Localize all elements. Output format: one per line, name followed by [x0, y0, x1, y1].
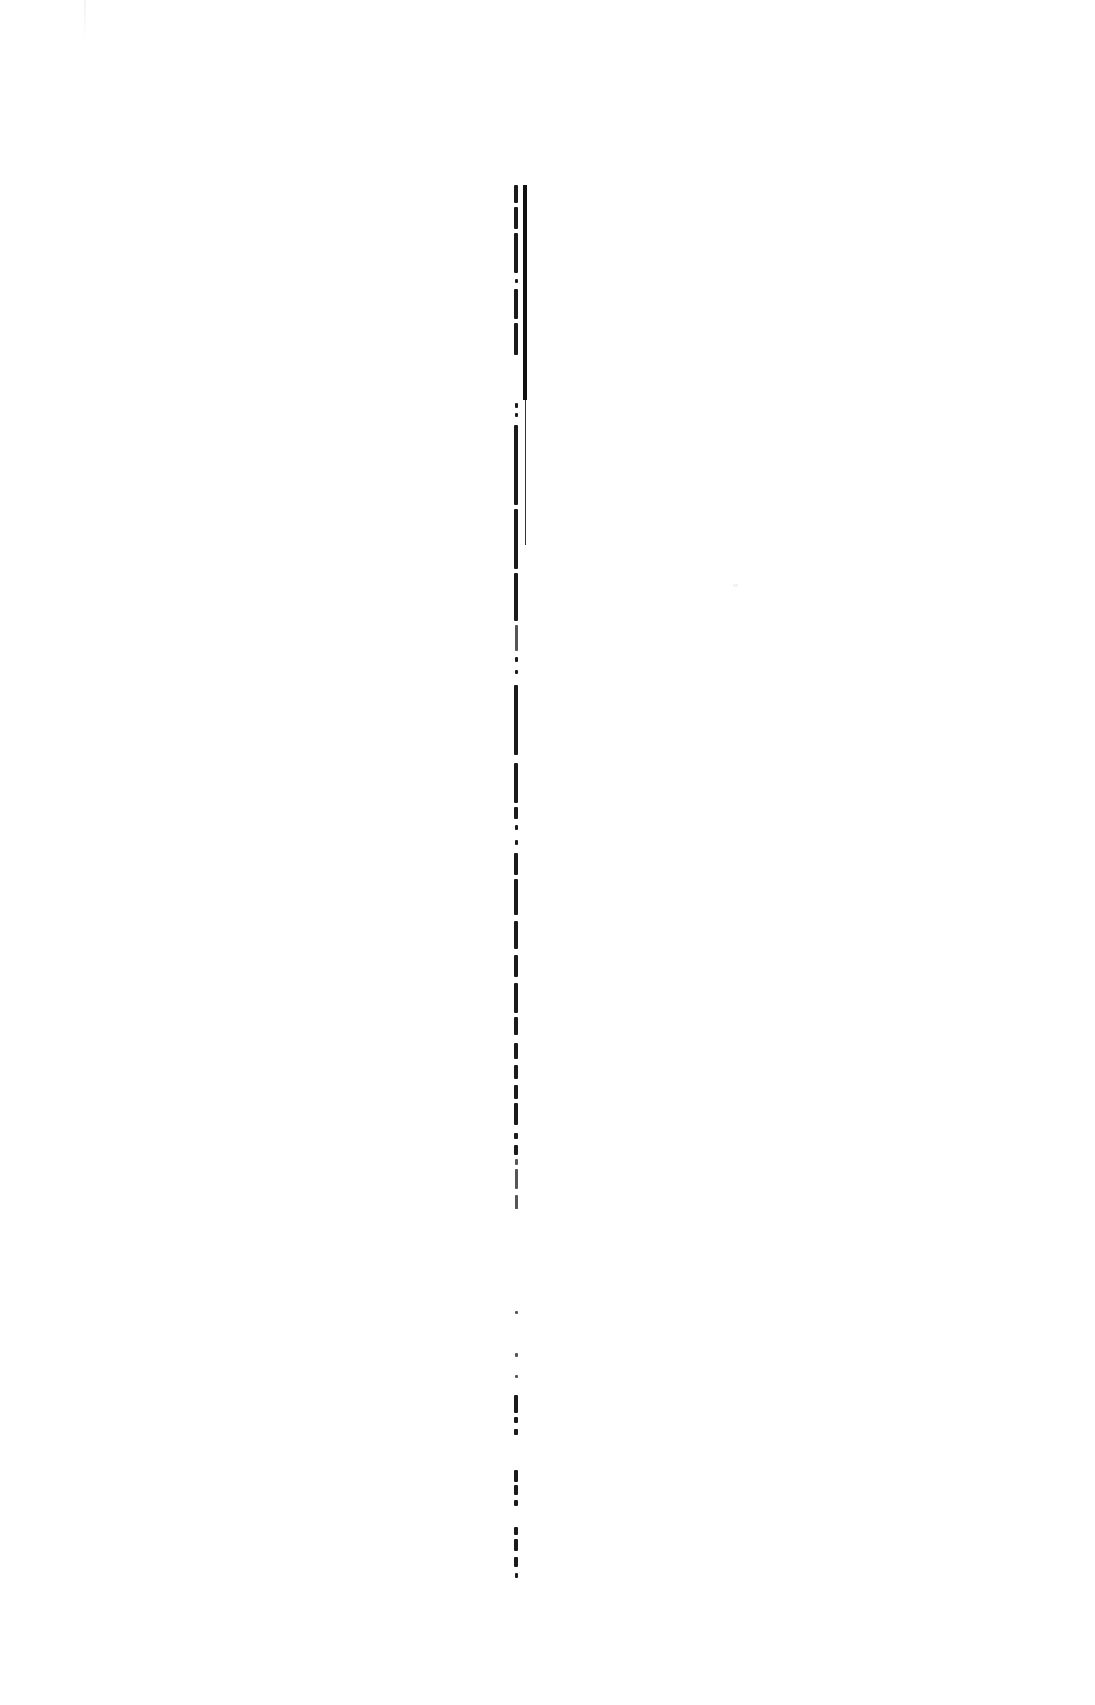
- text-fragment: [514, 1417, 518, 1423]
- rotated-text-line: [illegible scanned text]: [514, 185, 520, 1590]
- text-fragment: [514, 1065, 518, 1079]
- text-fragment: [514, 1043, 518, 1059]
- text-fragment: [514, 323, 518, 355]
- text-fragment: [514, 1470, 518, 1482]
- text-fragment: [514, 1395, 518, 1413]
- text-fragment: [514, 807, 518, 819]
- vertical-rule-thin: [525, 400, 526, 545]
- text-fragment: [515, 403, 518, 408]
- text-fragment: [514, 1429, 518, 1435]
- text-fragment: [515, 1205, 518, 1209]
- text-fragment: [514, 1133, 518, 1139]
- text-fragment: [514, 1557, 518, 1567]
- text-fragment: [514, 1103, 518, 1125]
- text-fragment: [514, 1527, 518, 1535]
- text-fragment: [514, 955, 518, 977]
- text-fragment: [514, 1539, 518, 1551]
- text-fragment: [514, 763, 518, 803]
- text-fragment: [514, 233, 518, 273]
- scan-artifact-mark: [84, 0, 86, 40]
- scan-speck: [733, 584, 738, 587]
- text-fragment: [514, 207, 518, 229]
- text-fragment: [514, 879, 518, 915]
- text-fragment: [515, 825, 518, 830]
- scanned-page: [illegible scanned text]: [0, 0, 1095, 1705]
- text-fragment: [514, 1485, 518, 1495]
- text-fragment: [515, 413, 518, 417]
- text-fragment: [514, 573, 518, 621]
- text-fragment: [515, 625, 518, 651]
- text-fragment: [515, 1169, 518, 1189]
- text-fragment: [514, 1085, 518, 1099]
- text-fragment: [515, 1573, 518, 1578]
- text-fragment: [514, 983, 518, 1013]
- text-fragment: [515, 670, 518, 674]
- text-fragment: [515, 1375, 518, 1378]
- text-fragment: [514, 425, 518, 505]
- text-fragment: [515, 1311, 518, 1314]
- text-fragment: [515, 279, 518, 283]
- text-fragment: [515, 840, 518, 845]
- text-fragment: [515, 1159, 518, 1165]
- text-fragment: [515, 657, 518, 662]
- text-fragment: [514, 1017, 518, 1035]
- text-fragment: [514, 1500, 518, 1506]
- text-fragment: [514, 853, 518, 875]
- text-fragment: [514, 509, 518, 569]
- text-fragment: [514, 685, 518, 755]
- text-fragment: [514, 185, 518, 203]
- text-fragment: [514, 921, 518, 949]
- text-fragment: [514, 289, 518, 319]
- vertical-rule-thick: [523, 185, 527, 400]
- text-fragment: [514, 1145, 518, 1155]
- text-fragment: [515, 1353, 518, 1357]
